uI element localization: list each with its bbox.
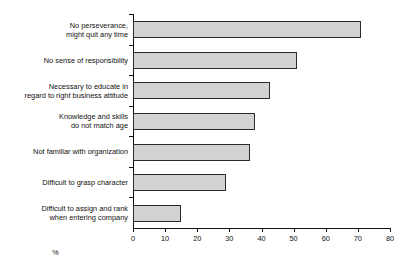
x-axis-title-text: %: [52, 248, 59, 257]
x-axis-tick-label: 20: [193, 234, 201, 243]
x-axis-tick-label: 70: [354, 234, 362, 243]
y-axis-tick: [129, 75, 133, 76]
y-axis-tick: [129, 106, 133, 107]
category-label: No sense of responsibility: [44, 56, 128, 65]
x-axis-tick-label: 40: [257, 234, 265, 243]
x-axis-tick: [197, 228, 198, 232]
x-axis-tick: [294, 228, 295, 232]
x-axis-tick: [133, 228, 134, 232]
y-axis-tick: [129, 14, 133, 15]
x-axis-tick-label: 50: [290, 234, 298, 243]
category-label: No perseverance, might quit any time: [66, 21, 128, 39]
y-axis-tick: [129, 197, 133, 198]
category-label: Not familiar with organization: [33, 147, 128, 156]
bar-no-sense-of-responsibility: [133, 52, 297, 69]
x-axis-tick: [390, 228, 391, 232]
x-axis-tick-label: 30: [225, 234, 233, 243]
x-axis-tick-label: 0: [131, 234, 135, 243]
category-label: Difficult to grasp character: [42, 178, 128, 187]
x-axis-tick-label: 60: [322, 234, 330, 243]
x-axis-tick: [358, 228, 359, 232]
category-label: Knowledge and skills do not match age: [59, 112, 128, 130]
x-axis-tick-label: 80: [386, 234, 394, 243]
bar-not-familiar-with-organization: [133, 144, 250, 161]
y-axis-tick: [129, 45, 133, 46]
bar-chart: No perseverance, might quit any time No …: [0, 0, 409, 269]
bar-difficult-to-grasp-character: [133, 174, 226, 191]
bar-difficult-to-assign-and-rank: [133, 205, 181, 222]
bar-necessary-to-educate: [133, 82, 270, 99]
x-axis-tick: [229, 228, 230, 232]
x-axis-tick: [326, 228, 327, 232]
x-axis-tick: [165, 228, 166, 232]
y-axis-tick: [129, 167, 133, 168]
x-axis-title: %: [0, 248, 409, 257]
bar-no-perseverance: [133, 21, 361, 38]
category-label: Difficult to assign and rank when enteri…: [41, 204, 128, 222]
x-axis-tick-label: 10: [161, 234, 169, 243]
bar-knowledge-skills-mismatch: [133, 113, 255, 130]
y-axis-tick: [129, 136, 133, 137]
plot-area: No perseverance, might quit any time No …: [0, 0, 409, 269]
category-label: Necessary to educate in regard to right …: [24, 82, 128, 100]
x-axis-tick: [262, 228, 263, 232]
